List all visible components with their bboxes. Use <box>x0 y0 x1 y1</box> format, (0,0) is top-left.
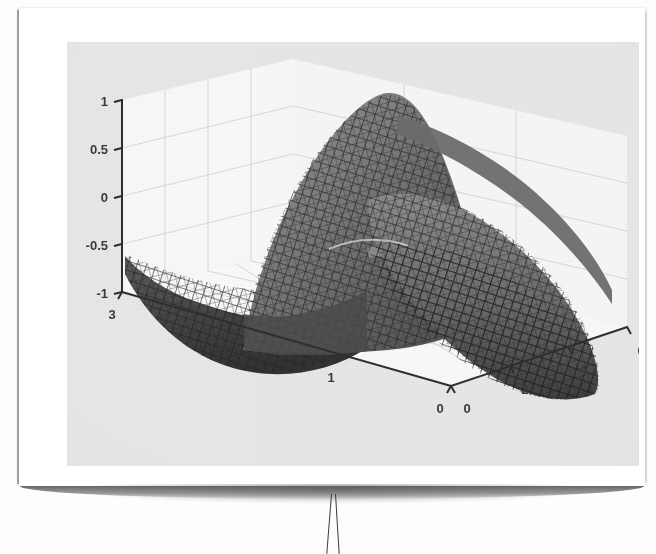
y-tick-label: 2 <box>218 338 225 353</box>
y-tick-label: 1 <box>327 370 334 385</box>
x-tick-label: 4 <box>579 362 587 377</box>
plot-figure: 1 0.5 0 -0.5 -1 3 2 1 0 0 2 4 6 <box>67 42 639 466</box>
tripod-leg-left <box>326 494 332 554</box>
z-tick-label: 1 <box>101 94 108 109</box>
projector-screen: 1 0.5 0 -0.5 -1 3 2 1 0 0 2 4 6 <box>19 8 645 486</box>
y-tick-label: 3 <box>108 307 115 322</box>
z-tick-labels: 1 0.5 0 -0.5 -1 <box>86 94 108 301</box>
tripod-stand <box>322 494 344 554</box>
x-tick-label: 0 <box>463 401 470 416</box>
x-tick-label: 2 <box>521 382 528 397</box>
surface-plot: 1 0.5 0 -0.5 -1 3 2 1 0 0 2 4 6 <box>67 42 639 466</box>
tripod-leg-right <box>335 494 340 554</box>
x-tick-label: 6 <box>637 343 639 358</box>
z-tick-label: 0 <box>101 190 108 205</box>
z-tick-label: 0.5 <box>90 142 108 157</box>
photo-scene: 1 0.5 0 -0.5 -1 3 2 1 0 0 2 4 6 <box>0 0 656 554</box>
z-tick-label: -0.5 <box>86 238 108 253</box>
z-tick-label: -1 <box>96 286 108 301</box>
y-tick-label: 0 <box>436 401 443 416</box>
